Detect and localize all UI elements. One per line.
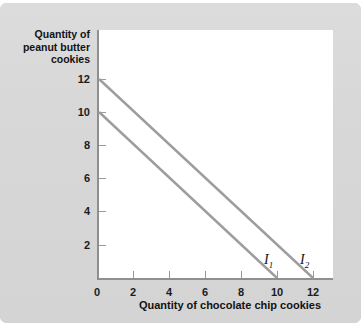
x-tick-6	[205, 271, 206, 278]
x-tick-label-8: 8	[228, 286, 254, 298]
x-tick-label-4: 4	[156, 286, 182, 298]
x-tick-2	[133, 271, 134, 278]
chart-screenshot: 12 10 8 6 4 2 0 2 4 6 8 10 12 Quantity o…	[0, 0, 364, 331]
x-tick-label-6: 6	[192, 286, 218, 298]
curve-label-I2: I2	[300, 252, 309, 270]
y-tick-4	[99, 211, 106, 212]
x-tick-label-12: 12	[300, 286, 326, 298]
y-tick-8	[99, 145, 106, 146]
y-tick-6	[99, 178, 106, 179]
y-tick-label-4: 4	[62, 205, 90, 217]
y-tick-12	[99, 79, 106, 80]
y-axis-title: Quantity of peanut butter cookies	[6, 28, 90, 66]
curve-label-I1: I1	[264, 252, 273, 270]
y-axis-line	[97, 30, 99, 280]
y-tick-2	[99, 245, 106, 246]
y-tick-label-8: 8	[62, 139, 90, 151]
plot-area	[97, 30, 333, 279]
x-tick-label-10: 10	[264, 286, 290, 298]
y-tick-label-6: 6	[62, 172, 90, 184]
y-axis-title-line-2: peanut butter	[6, 41, 90, 54]
y-tick-label-12: 12	[62, 73, 90, 85]
x-axis-line	[97, 278, 333, 280]
x-axis-title: Quantity of chocolate chip cookies	[120, 299, 340, 311]
x-tick-8	[241, 271, 242, 278]
origin-label-0: 0	[84, 286, 110, 298]
y-tick-10	[99, 112, 106, 113]
y-tick-label-2: 2	[62, 239, 90, 251]
y-tick-label-10: 10	[62, 106, 90, 118]
x-tick-10	[277, 271, 278, 278]
y-axis-title-line-1: Quantity of	[6, 28, 90, 41]
y-axis-title-line-3: cookies	[6, 53, 90, 66]
x-tick-12	[313, 271, 314, 278]
x-tick-label-2: 2	[120, 286, 146, 298]
curve-label-I2-sub: 2	[305, 260, 310, 270]
x-tick-4	[169, 271, 170, 278]
curve-label-I1-sub: 1	[269, 260, 274, 270]
